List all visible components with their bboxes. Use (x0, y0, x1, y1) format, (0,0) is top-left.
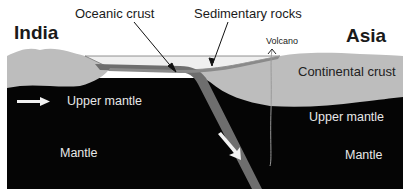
label-volcano: Volcano (266, 36, 298, 46)
label-upper-mantle-right: Upper mantle (309, 110, 384, 124)
label-oceanic-crust: Oceanic crust (75, 6, 154, 21)
label-asia: Asia (346, 25, 386, 47)
label-sedimentary-rocks: Sedimentary rocks (194, 6, 302, 21)
label-india: India (14, 22, 58, 44)
label-mantle-right: Mantle (345, 148, 383, 162)
label-upper-mantle-left: Upper mantle (67, 94, 142, 108)
label-continental-crust: Continental crust (298, 64, 396, 79)
label-mantle-left: Mantle (60, 146, 98, 160)
